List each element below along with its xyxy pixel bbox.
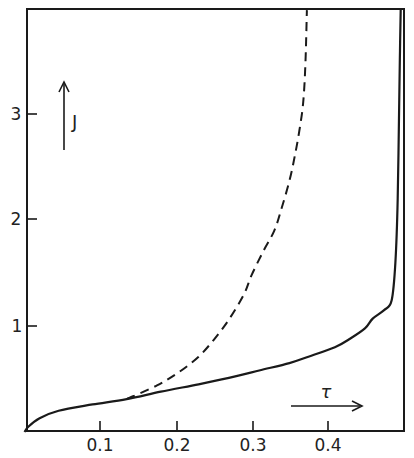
chart: 0.1 0.2 0.3 0.4 1 2 3 J τ <box>0 0 414 458</box>
x-tick-label: 0.2 <box>163 435 190 455</box>
y-ticks <box>27 114 37 326</box>
x-tick-labels: 0.1 0.2 0.3 0.4 <box>86 435 341 455</box>
x-tick-label: 0.1 <box>86 435 113 455</box>
y-axis-annotation: J <box>59 82 77 150</box>
x-tick-label: 0.3 <box>239 435 266 455</box>
x-axis-label: τ <box>321 381 332 402</box>
plot-frame <box>27 9 404 431</box>
x-ticks <box>100 421 328 431</box>
y-tick-label: 2 <box>11 209 22 229</box>
y-axis-label: J <box>71 111 77 132</box>
y-tick-label: 3 <box>11 104 22 124</box>
dashed-curve <box>127 10 307 399</box>
y-tick-label: 1 <box>12 316 23 336</box>
x-axis-annotation: τ <box>291 381 362 411</box>
y-tick-labels: 1 2 3 <box>11 104 23 336</box>
x-tick-label: 0.4 <box>314 435 341 455</box>
solid-curve <box>25 10 401 432</box>
